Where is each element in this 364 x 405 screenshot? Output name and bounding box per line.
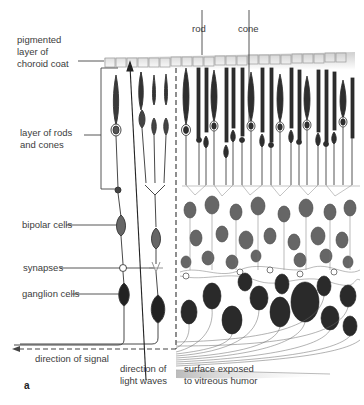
label-vitreous-surface: surface exposed to vitreous humor [184, 363, 257, 387]
label-direction-of-light: direction of light waves [120, 363, 167, 387]
light-arrow [127, 62, 146, 380]
label-direction-of-signal: direction of signal [35, 353, 109, 365]
label-ganglion-cells: ganglion cells [22, 288, 80, 300]
outer-synaptic-layer [182, 185, 360, 196]
photoreceptor-layer [182, 68, 355, 185]
label-bipolar-cells: bipolar cells [22, 219, 72, 231]
schematic-chain-2 [20, 72, 168, 344]
pigmented-layer [104, 52, 355, 70]
panel-label: a [24, 380, 30, 391]
schematic-chain-1 [14, 75, 129, 345]
ganglion-layer [181, 273, 357, 336]
label-synapses: synapses [23, 262, 63, 274]
label-rods-cones-layer: layer of rods and cones [20, 127, 72, 151]
label-rod: rod [192, 23, 206, 35]
label-cone: cone [238, 23, 259, 35]
label-pigmented-layer: pigmented layer of choroid coat [17, 34, 69, 70]
